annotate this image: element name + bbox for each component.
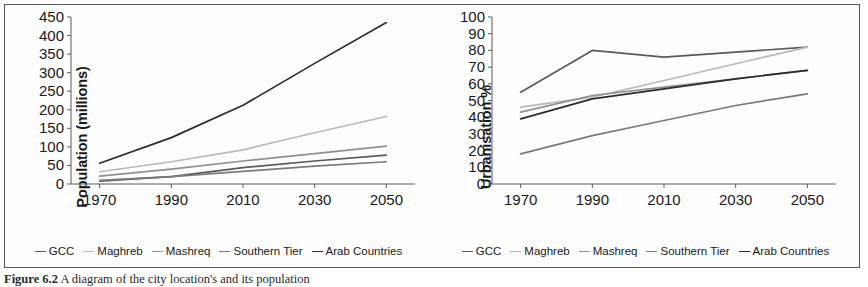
svg-text:30: 30 <box>468 125 485 142</box>
svg-text:1970: 1970 <box>83 191 116 208</box>
svg-text:60: 60 <box>468 75 485 92</box>
legend-item: Southern Tier <box>646 246 729 258</box>
legend-label: GCC <box>49 246 75 258</box>
legend-item: Maghreb <box>83 246 142 258</box>
svg-text:250: 250 <box>39 82 64 99</box>
plot-area-urbanisation: Urbanisation % 0102030405060708090100197… <box>432 7 859 267</box>
legend-item: Maghreb <box>510 246 569 258</box>
svg-text:450: 450 <box>39 8 64 25</box>
legend-swatch-line-icon <box>510 251 521 252</box>
legend-label: Arab Countries <box>753 246 830 258</box>
svg-text:2030: 2030 <box>719 191 752 208</box>
svg-text:2030: 2030 <box>298 191 331 208</box>
figure-frame: Population (millions) 050100150200250300… <box>4 4 860 268</box>
figure-caption-text: A diagram of the city location's and its… <box>60 272 309 286</box>
svg-text:400: 400 <box>39 27 64 44</box>
svg-text:0: 0 <box>56 175 64 192</box>
legend-swatch-line-icon <box>579 251 590 252</box>
svg-text:200: 200 <box>39 101 64 118</box>
legend-label: GCC <box>476 246 502 258</box>
svg-text:1990: 1990 <box>155 191 188 208</box>
svg-text:2050: 2050 <box>370 191 403 208</box>
legend-swatch-line-icon <box>646 251 657 252</box>
svg-text:2010: 2010 <box>647 191 680 208</box>
legend-label: Maghreb <box>97 246 142 258</box>
svg-text:50: 50 <box>468 92 485 109</box>
legend-item: Southern Tier <box>219 246 302 258</box>
figure-caption-label: Figure 6.2 <box>4 272 58 286</box>
figure-caption: Figure 6.2 A diagram of the city locatio… <box>4 272 864 287</box>
legend-item: Arab Countries <box>312 246 403 258</box>
chart-panel-urbanisation: Urbanisation % 0102030405060708090100197… <box>432 5 859 267</box>
legend-swatch-line-icon <box>35 251 46 252</box>
legend-swatch-line-icon <box>83 251 94 252</box>
svg-text:70: 70 <box>468 58 485 75</box>
legend-item: GCC <box>35 246 75 258</box>
svg-text:10: 10 <box>468 158 485 175</box>
svg-text:300: 300 <box>39 64 64 81</box>
svg-text:150: 150 <box>39 119 64 136</box>
svg-text:20: 20 <box>468 142 485 159</box>
legend-label: Arab Countries <box>326 246 403 258</box>
legend-swatch-line-icon <box>462 251 473 252</box>
svg-text:1990: 1990 <box>576 191 609 208</box>
svg-text:2050: 2050 <box>791 191 824 208</box>
legend-item: Mashreq <box>152 246 211 258</box>
svg-text:50: 50 <box>47 156 64 173</box>
legend-label: Southern Tier <box>660 246 729 258</box>
line-chart-population: 0501001502002503003504004501970199020102… <box>5 7 433 222</box>
legend-label: Maghreb <box>524 246 569 258</box>
chart-panel-population: Population (millions) 050100150200250300… <box>5 5 432 267</box>
legend-item: Mashreq <box>579 246 638 258</box>
plot-area-population: Population (millions) 050100150200250300… <box>5 7 432 267</box>
legend-swatch-line-icon <box>312 251 323 252</box>
svg-text:1970: 1970 <box>504 191 537 208</box>
svg-text:0: 0 <box>477 175 485 192</box>
svg-text:80: 80 <box>468 41 485 58</box>
svg-text:350: 350 <box>39 45 64 62</box>
legend-label: Mashreq <box>166 246 211 258</box>
svg-text:2010: 2010 <box>226 191 259 208</box>
legend-urbanisation: GCCMaghrebMashreqSouthern TierArab Count… <box>432 246 859 258</box>
legend-swatch-line-icon <box>739 251 750 252</box>
legend-item: Arab Countries <box>739 246 830 258</box>
svg-text:90: 90 <box>468 25 485 42</box>
svg-text:100: 100 <box>39 138 64 155</box>
legend-label: Mashreq <box>593 246 638 258</box>
legend-population: GCCMaghrebMashreqSouthern TierArab Count… <box>5 246 432 258</box>
charts-row: Population (millions) 050100150200250300… <box>5 5 859 267</box>
legend-swatch-line-icon <box>219 251 230 252</box>
legend-item: GCC <box>462 246 502 258</box>
legend-swatch-line-icon <box>152 251 163 252</box>
svg-text:40: 40 <box>468 108 485 125</box>
svg-text:100: 100 <box>460 8 485 25</box>
legend-label: Southern Tier <box>233 246 302 258</box>
line-chart-urbanisation: 0102030405060708090100197019902010203020… <box>432 7 860 222</box>
